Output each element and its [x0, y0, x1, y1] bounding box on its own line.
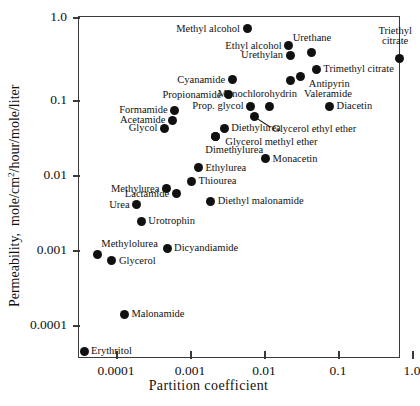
- x-tick-mark: [412, 351, 414, 359]
- data-point-label: Dicyandiamide: [174, 243, 238, 254]
- x-axis-title: Partition coefficient: [0, 378, 417, 394]
- data-point-label: Monochlorohydrin: [218, 89, 297, 100]
- data-point: [120, 310, 129, 319]
- data-point-label: Urea: [109, 199, 129, 210]
- x-tick-label: 0.01: [252, 363, 276, 379]
- data-point-label: Lactamide: [125, 189, 169, 200]
- x-tick-label: 0.001: [175, 363, 205, 379]
- data-point-label: Methylolurea: [101, 239, 158, 250]
- y-tick-mark: [73, 17, 80, 19]
- data-point-label: Glycerol methyl ether: [225, 137, 317, 148]
- data-point: [137, 217, 146, 226]
- x-tick-label: 1.0: [404, 363, 420, 379]
- data-point-label: Methyl alcohol: [176, 23, 240, 34]
- data-point: [168, 116, 177, 125]
- data-point: [312, 65, 321, 74]
- y-tick-label: 0.1: [50, 92, 67, 108]
- data-point-label: Diethyl malonamide: [218, 196, 304, 207]
- y-axis-title: Permeability, mole/cm2/hour/mole/liter: [5, 36, 23, 356]
- data-point-label: Urethylan: [241, 50, 283, 61]
- data-point-label: Diacetin: [337, 101, 373, 112]
- data-point: [307, 48, 316, 57]
- data-point: [107, 256, 116, 265]
- y-tick-mark: [73, 175, 80, 177]
- data-point-label: Malonamide: [131, 309, 184, 320]
- data-point: [286, 51, 295, 60]
- data-point: [228, 75, 237, 84]
- y-tick-label: 1.0: [50, 9, 67, 25]
- data-point: [211, 132, 220, 141]
- data-point-label: Thiourea: [199, 176, 237, 187]
- data-point-label: Cyanamide: [177, 74, 225, 85]
- data-point: [93, 250, 102, 259]
- data-point-label: Triethylcitrate: [378, 26, 411, 47]
- data-point: [395, 54, 404, 63]
- x-tick-label: 0.0001: [97, 363, 134, 379]
- y-tick-mark: [73, 325, 80, 327]
- data-point: [243, 24, 252, 33]
- data-point: [194, 163, 203, 172]
- data-point-label: Glycerol ethyl ether: [272, 124, 356, 135]
- y-tick-label: 0.001: [37, 242, 67, 258]
- data-point-label: Monacetin: [273, 153, 318, 164]
- data-point: [160, 124, 169, 133]
- data-point-label: Propionamide: [162, 90, 221, 101]
- y-axis-title-text: Permeability, mole/cm2/hour/mole/liter: [7, 85, 22, 308]
- y-tick-label: 0.01: [43, 167, 67, 183]
- data-point-label: Urotrophin: [148, 216, 195, 227]
- data-point-label: Diethylurea: [231, 123, 281, 134]
- y-tick-mark: [73, 100, 80, 102]
- data-point: [325, 102, 334, 111]
- data-point-label: Prop. glycol: [192, 101, 243, 112]
- data-point: [246, 102, 255, 111]
- data-point: [163, 244, 172, 253]
- data-point-label: Urethane: [293, 32, 331, 43]
- data-point-label: Trimethyl citrate: [323, 64, 393, 75]
- data-point: [187, 177, 196, 186]
- y-tick-label: 0.0001: [30, 317, 67, 333]
- data-point: [206, 197, 215, 206]
- data-point: [261, 154, 270, 163]
- data-point: [286, 76, 295, 85]
- x-tick-mark: [190, 351, 192, 359]
- data-point: [170, 106, 179, 115]
- data-point: [80, 347, 89, 356]
- x-tick-mark: [338, 351, 340, 359]
- data-point-label: Erythritol: [91, 346, 132, 357]
- plot-area: 1.00.10.010.0010.00010.00010.0010.010.11…: [78, 16, 400, 358]
- data-point: [296, 72, 305, 81]
- data-point-label: Glycol: [129, 123, 158, 134]
- data-point: [172, 189, 181, 198]
- data-point-label: Ethylurea: [205, 162, 246, 173]
- data-point: [220, 124, 229, 133]
- data-point: [132, 200, 141, 209]
- data-point: [265, 102, 274, 111]
- y-tick-mark: [73, 250, 80, 252]
- x-tick-label: 0.1: [330, 363, 347, 379]
- data-point-label: Valeramide: [304, 89, 352, 100]
- x-tick-mark: [264, 351, 266, 359]
- data-point-label: Glycerol: [119, 255, 156, 266]
